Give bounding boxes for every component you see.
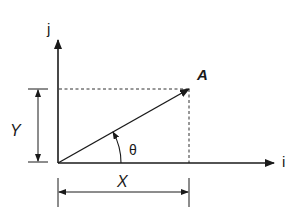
x-component-label: X — [116, 173, 129, 190]
j-axis-label: j — [46, 20, 50, 37]
diagram-canvas: j i A Y X θ — [0, 0, 298, 219]
theta-label: θ — [129, 142, 137, 158]
y-component-label: Y — [10, 122, 22, 139]
vector-diagram: j i A Y X θ — [0, 0, 298, 219]
vector-a-arrow — [58, 89, 189, 163]
i-axis-label: i — [282, 153, 285, 170]
vector-a-label: A — [196, 66, 208, 83]
angle-arc — [113, 132, 121, 163]
